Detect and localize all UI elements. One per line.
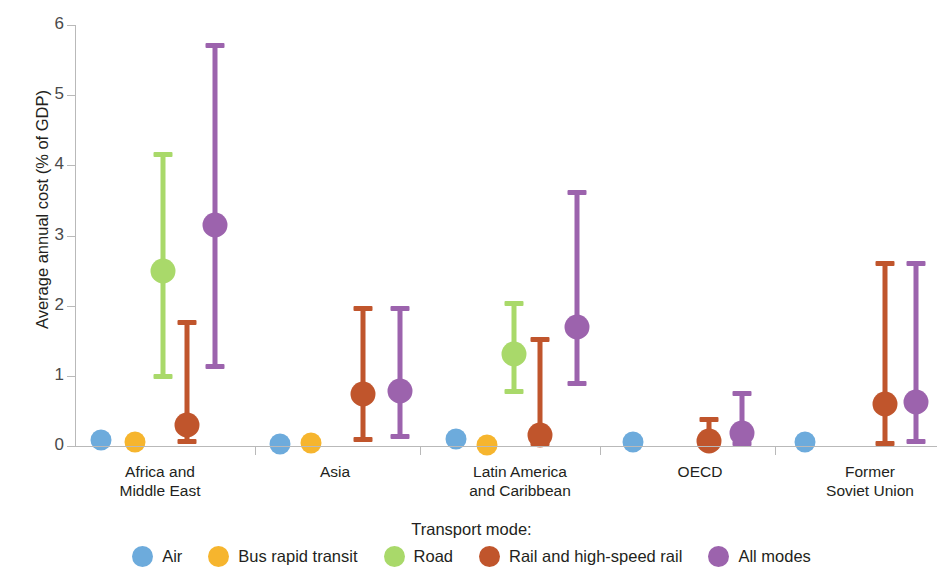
error-bar-line — [914, 261, 919, 443]
legend-label: Air — [162, 547, 182, 566]
data-point-dot — [565, 315, 590, 340]
legend-label: Road — [414, 547, 453, 566]
x-axis-separator — [775, 446, 776, 455]
legend-label: All modes — [738, 547, 810, 566]
error-bar-cap-upper — [568, 190, 587, 195]
x-axis-separator — [600, 446, 601, 455]
data-point-dot — [904, 389, 929, 414]
error-bar-cap-upper — [354, 306, 373, 311]
legend-item[interactable]: Road — [384, 546, 453, 567]
plot-area — [0, 0, 943, 470]
data-point-dot — [873, 391, 898, 416]
error-bar-line — [213, 43, 218, 369]
error-bar-cap-upper — [531, 337, 550, 342]
data-point-dot — [175, 412, 200, 437]
data-marker — [348, 0, 378, 470]
error-bar-cap-lower — [206, 364, 225, 369]
x-axis-line — [75, 446, 937, 447]
data-marker — [200, 0, 230, 470]
x-group-label-line: Former — [760, 462, 943, 481]
error-bar-cap-lower — [568, 381, 587, 386]
data-point-dot — [270, 433, 291, 454]
data-point-dot — [301, 433, 322, 454]
data-point-dot — [203, 212, 228, 237]
error-bar-line — [398, 306, 403, 439]
data-marker — [525, 0, 555, 470]
x-group-label: FormerSoviet Union — [760, 462, 943, 500]
legend-swatch-circle-icon — [384, 546, 405, 567]
data-point-dot — [388, 379, 413, 404]
data-marker — [296, 0, 326, 470]
data-point-dot — [91, 429, 112, 450]
error-bar-cap-upper — [206, 43, 225, 48]
data-point-dot — [697, 429, 722, 454]
error-bar-cap-upper — [876, 261, 895, 266]
legend: Transport mode: AirBus rapid transitRoad… — [0, 520, 943, 567]
data-point-dot — [125, 431, 146, 452]
data-marker — [870, 0, 900, 470]
data-point-dot — [730, 421, 755, 446]
error-bar-line — [575, 190, 580, 386]
data-marker — [727, 0, 757, 470]
data-marker — [618, 0, 648, 470]
error-bar-cap-lower — [178, 439, 197, 444]
legend-item[interactable]: Air — [132, 546, 182, 567]
legend-item[interactable]: Rail and high-speed rail — [479, 546, 682, 567]
data-marker — [901, 0, 931, 470]
error-bar-line — [361, 306, 366, 441]
legend-item[interactable]: Bus rapid transit — [208, 546, 357, 567]
data-marker — [441, 0, 471, 470]
x-group-label-line: Soviet Union — [760, 481, 943, 500]
error-bar-cap-lower — [354, 437, 373, 442]
data-marker — [694, 0, 724, 470]
legend-items: AirBus rapid transitRoadRail and high-sp… — [0, 546, 943, 567]
error-bar-cap-lower — [505, 389, 524, 394]
chart-container: Average annual cost (% of GDP) 0123456 A… — [0, 0, 943, 575]
error-bar-cap-upper — [154, 152, 173, 157]
data-point-dot — [623, 431, 644, 452]
data-marker — [265, 0, 295, 470]
data-point-dot — [351, 382, 376, 407]
error-bar-cap-upper — [700, 417, 719, 422]
legend-swatch-circle-icon — [208, 546, 229, 567]
error-bar-line — [883, 261, 888, 446]
error-bar-cap-lower — [391, 434, 410, 439]
data-point-dot — [528, 423, 553, 448]
legend-item[interactable]: All modes — [708, 546, 810, 567]
error-bar-cap-upper — [907, 261, 926, 266]
legend-swatch-circle-icon — [132, 546, 153, 567]
data-point-dot — [477, 434, 498, 455]
error-bar-cap-upper — [733, 391, 752, 396]
error-bar-cap-lower — [907, 439, 926, 444]
x-axis-separator — [420, 446, 421, 455]
data-marker — [120, 0, 150, 470]
data-point-dot — [795, 431, 816, 452]
data-marker — [86, 0, 116, 470]
legend-title: Transport mode: — [0, 520, 943, 539]
error-bar-cap-lower — [154, 374, 173, 379]
legend-swatch-circle-icon — [479, 546, 500, 567]
data-marker — [472, 0, 502, 470]
x-group-label-line: Middle East — [50, 481, 270, 500]
data-point-dot — [502, 342, 527, 367]
x-group-label-line: and Caribbean — [410, 481, 630, 500]
error-bar-cap-upper — [391, 306, 410, 311]
data-marker — [172, 0, 202, 470]
data-marker — [790, 0, 820, 470]
data-marker — [385, 0, 415, 470]
x-axis-separator — [255, 446, 256, 455]
legend-label: Bus rapid transit — [238, 547, 357, 566]
legend-label: Rail and high-speed rail — [509, 547, 682, 566]
data-marker — [562, 0, 592, 470]
error-bar-cap-upper — [178, 320, 197, 325]
legend-swatch-circle-icon — [708, 546, 729, 567]
error-bar-cap-upper — [505, 301, 524, 306]
